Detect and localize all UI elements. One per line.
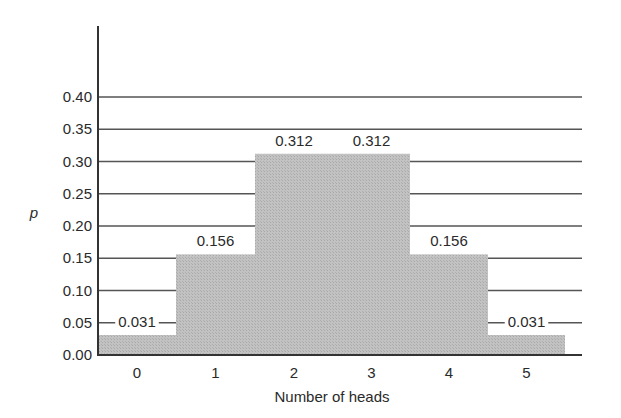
bar-value-label: 0.031 <box>508 313 546 330</box>
bar-value-label: 0.156 <box>197 232 235 249</box>
y-tick-label: 0.35 <box>63 120 92 137</box>
y-axis-label: p <box>29 204 38 221</box>
binomial-histogram-chart: 0.0310.1560.3120.3120.1560.031 0.000.050… <box>0 0 621 418</box>
y-tick-label: 0.25 <box>63 185 92 202</box>
y-tick-label: 0.30 <box>63 153 92 170</box>
y-tick-label: 0.20 <box>63 217 92 234</box>
y-tick-label: 0.00 <box>63 346 92 363</box>
bars <box>98 154 565 355</box>
y-tick-label: 0.05 <box>63 314 92 331</box>
bar-value-label: 0.312 <box>275 132 313 149</box>
y-tick-label: 0.40 <box>63 88 92 105</box>
bar-2 <box>255 154 333 355</box>
x-tick-label: 2 <box>290 364 298 381</box>
bar-3 <box>333 154 410 355</box>
bar-1 <box>176 254 255 355</box>
y-tick-labels: 0.000.050.100.150.200.250.300.350.40 <box>63 88 92 363</box>
bar-4 <box>410 254 488 355</box>
x-tick-label: 4 <box>445 364 453 381</box>
x-tick-label: 3 <box>367 364 375 381</box>
y-tick-label: 0.15 <box>63 249 92 266</box>
x-axis-label: Number of heads <box>274 388 389 405</box>
x-tick-label: 5 <box>522 364 530 381</box>
bar-value-label: 0.312 <box>353 132 391 149</box>
bar-5 <box>488 335 565 355</box>
bar-value-label: 0.031 <box>118 313 156 330</box>
x-tick-label: 1 <box>211 364 219 381</box>
x-tick-labels: 012345 <box>133 364 531 381</box>
bar-value-label: 0.156 <box>430 232 468 249</box>
x-tick-label: 0 <box>133 364 141 381</box>
bar-0 <box>98 335 176 355</box>
y-tick-label: 0.10 <box>63 282 92 299</box>
